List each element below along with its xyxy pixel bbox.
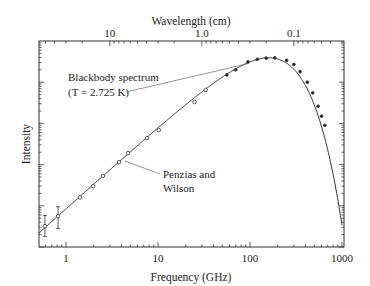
data-point [157,128,161,132]
data-point [299,70,302,73]
data-point [43,224,47,228]
top-tick-label: 0.1 [287,27,301,39]
x-tick-label: 1 [63,252,69,264]
blackbody-label-line2: (T = 2.725 K) [68,86,129,99]
data-point [56,214,60,218]
cmb-spectrum-chart: 1101001000101.00.1 Blackbody spectrum (T… [0,0,370,286]
x-tick-label: 100 [242,252,259,264]
data-point [292,63,295,66]
data-point [323,124,326,127]
data-point [317,105,320,108]
penzias-wilson-leader-line [124,161,160,174]
blackbody-line [39,58,342,233]
top-axis-label: Wavelength (cm) [151,15,230,28]
data-point [101,174,105,178]
data-point [265,57,268,60]
data-point [311,91,314,94]
data-point [126,151,130,155]
data-point [225,74,228,77]
blackbody-curve [39,58,342,233]
data-point [145,136,149,140]
penzias-wilson-label-line2: Wilson [163,182,195,194]
data-point [273,56,276,59]
data-point [78,196,82,200]
data-point [234,68,237,71]
data-point [117,160,121,164]
data-point [320,115,323,118]
penzias-wilson-label-line1: Penzias and [163,168,216,180]
data-point [91,184,95,188]
data-point [306,81,309,84]
x-tick-label: 10 [153,252,165,264]
data-point [285,59,288,62]
data-point [204,88,208,92]
top-tick-label: 10 [104,27,116,39]
plot-frame: 1101001000101.00.1 [39,27,354,264]
x-tick-label: 1000 [331,252,354,264]
data-point [193,100,197,104]
measurement-points [43,56,326,236]
x-axis-label: Frequency (GHz) [151,271,232,284]
data-point [256,58,259,61]
y-axis-label: Intensity [20,124,33,164]
blackbody-label-line1: Blackbody spectrum [68,71,159,83]
data-point [247,61,250,64]
top-tick-label: 1.0 [195,27,209,39]
